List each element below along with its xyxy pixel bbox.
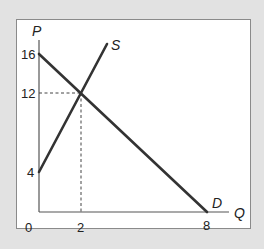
supply-label: S	[111, 37, 121, 53]
p-axis-label: P	[32, 23, 42, 39]
demand-label: D	[212, 195, 222, 211]
q-axis-label: Q	[234, 205, 245, 221]
demand-curve	[39, 54, 207, 212]
y-tick-16: 16	[21, 47, 35, 62]
origin-label: 0	[25, 220, 32, 235]
x-tick-8: 8	[203, 218, 210, 233]
supply-demand-chart: P Q S D 16 12 4 0 2 8	[0, 0, 264, 249]
y-tick-12: 12	[21, 86, 35, 101]
x-tick-2: 2	[77, 220, 84, 235]
y-tick-4: 4	[27, 165, 34, 180]
